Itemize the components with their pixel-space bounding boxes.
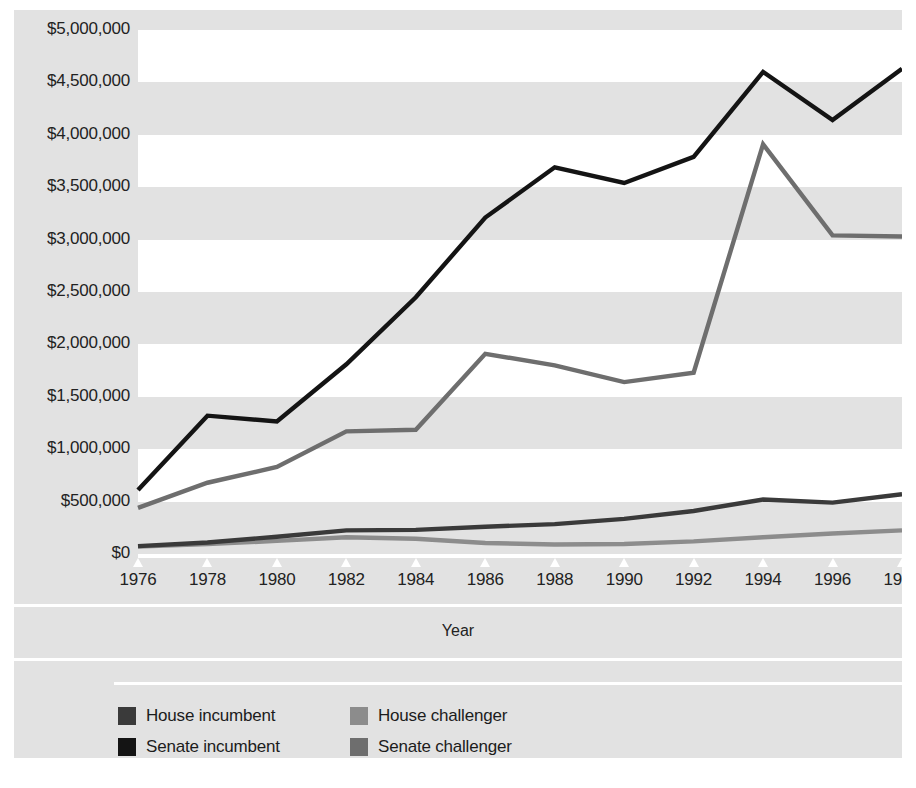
y-axis-tick-label: $4,000,000 bbox=[18, 124, 130, 144]
legend-item[interactable]: Senate incumbent bbox=[118, 737, 350, 757]
legend-swatch-icon bbox=[118, 707, 136, 725]
y-axis-tick-label: $2,000,000 bbox=[18, 333, 130, 353]
y-axis-tick-label: $1,000,000 bbox=[18, 438, 130, 458]
legend-item-label: House challenger bbox=[378, 706, 507, 726]
series-line-senate-challenger bbox=[138, 144, 902, 508]
y-axis-tick-label: $3,500,000 bbox=[18, 176, 130, 196]
x-axis: 1976197819801982198419861988199019921994… bbox=[138, 554, 902, 600]
x-axis-tick-mark bbox=[411, 558, 421, 567]
series-line-senate-incumbent bbox=[138, 69, 902, 490]
y-axis-tick-label: $3,000,000 bbox=[18, 229, 130, 249]
chart-figure: $0$500,000$1,000,000$1,500,000$2,000,000… bbox=[14, 10, 902, 772]
axis-title-rule-bottom bbox=[14, 658, 902, 661]
x-axis-tick-mark bbox=[828, 558, 838, 567]
legend-item[interactable]: House challenger bbox=[350, 706, 582, 726]
legend-swatch-icon bbox=[350, 707, 368, 725]
y-axis-tick-label: $500,000 bbox=[18, 491, 130, 511]
x-axis-tick-mark bbox=[202, 558, 212, 567]
legend-divider bbox=[114, 682, 902, 685]
y-axis: $0$500,000$1,000,000$1,500,000$2,000,000… bbox=[14, 30, 130, 554]
x-axis-title: Year bbox=[14, 622, 902, 640]
x-axis-tick-label: 1982 bbox=[328, 570, 365, 590]
series-lines bbox=[138, 30, 902, 554]
x-axis-tick-label: 1980 bbox=[258, 570, 295, 590]
x-axis-tick-label: 1986 bbox=[467, 570, 504, 590]
x-axis-tick-mark bbox=[550, 558, 560, 567]
x-axis-tick-label: 1998 bbox=[883, 570, 902, 590]
x-axis-tick-label: 1994 bbox=[745, 570, 782, 590]
y-axis-tick-label: $0 bbox=[18, 543, 130, 563]
x-axis-tick-label: 1988 bbox=[536, 570, 573, 590]
y-axis-tick-label: $1,500,000 bbox=[18, 386, 130, 406]
series-line-house-incumbent bbox=[138, 494, 902, 546]
x-axis-tick-mark bbox=[897, 558, 902, 567]
axis-title-rule-top bbox=[14, 604, 902, 607]
x-axis-tick-mark bbox=[689, 558, 699, 567]
x-axis-tick-label: 1992 bbox=[675, 570, 712, 590]
x-axis-tick-mark bbox=[619, 558, 629, 567]
x-axis-baseline bbox=[138, 554, 902, 558]
y-axis-tick-label: $4,500,000 bbox=[18, 71, 130, 91]
legend-item-label: House incumbent bbox=[146, 706, 275, 726]
x-axis-tick-mark bbox=[758, 558, 768, 567]
legend-item[interactable]: Senate challenger bbox=[350, 737, 582, 757]
x-axis-tick-mark bbox=[341, 558, 351, 567]
x-axis-tick-mark bbox=[272, 558, 282, 567]
figure-bottom-margin bbox=[14, 758, 902, 772]
legend-swatch-icon bbox=[350, 738, 368, 756]
x-axis-tick-label: 1976 bbox=[119, 570, 156, 590]
x-axis-tick-label: 1990 bbox=[606, 570, 643, 590]
plot-area bbox=[138, 30, 902, 554]
y-axis-tick-label: $5,000,000 bbox=[18, 19, 130, 39]
legend-item-label: Senate incumbent bbox=[146, 737, 280, 757]
x-axis-tick-mark bbox=[480, 558, 490, 567]
x-axis-tick-mark bbox=[133, 558, 143, 567]
x-axis-tick-label: 1984 bbox=[397, 570, 434, 590]
y-axis-tick-label: $2,500,000 bbox=[18, 281, 130, 301]
legend-swatch-icon bbox=[118, 738, 136, 756]
chart-legend: House incumbentHouse challengerSenate in… bbox=[118, 700, 718, 762]
legend-item-label: Senate challenger bbox=[378, 737, 512, 757]
legend-item[interactable]: House incumbent bbox=[118, 706, 350, 726]
x-axis-tick-label: 1978 bbox=[189, 570, 226, 590]
x-axis-tick-label: 1996 bbox=[814, 570, 851, 590]
